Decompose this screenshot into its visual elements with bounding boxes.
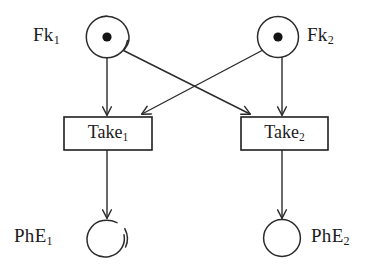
transition-label-take2: Take2	[241, 122, 328, 143]
place-phe1[interactable]	[87, 220, 127, 257]
place-label-phe1: PhE1	[14, 225, 53, 249]
token-fk2	[273, 32, 282, 41]
place-label-fk1: Fk1	[33, 24, 60, 48]
arc-fk2-to-take1	[142, 51, 262, 115]
place-fk2[interactable]	[258, 17, 299, 58]
token-fk1	[102, 32, 111, 41]
transition-label-take1: Take1	[64, 122, 152, 143]
place-label-phe2: PhE2	[311, 225, 350, 249]
place-fk1[interactable]	[86, 16, 129, 58]
place-phe2[interactable]	[264, 220, 301, 257]
petri-net-diagram: Fk1 Fk2 PhE1 PhE2 Take1 Take2	[0, 0, 384, 264]
place-label-fk2: Fk2	[307, 24, 334, 48]
arc-fk1-to-take2	[124, 51, 251, 115]
